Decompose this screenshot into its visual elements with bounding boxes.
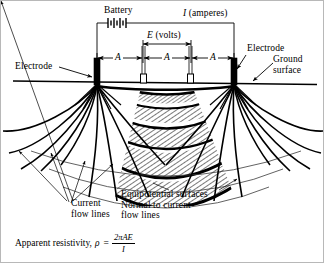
current-flow-label: Current flow lines: [71, 198, 127, 219]
leader-current-flow-lines: [1, 1, 113, 203]
current-label: II (amperes) (amperes): [183, 8, 228, 19]
formula-lead-text: Apparent resistivity,: [15, 238, 92, 248]
leader-electrode-right: [237, 55, 246, 69]
battery-label: Battery: [104, 5, 133, 16]
electrode-right-potential: [188, 74, 194, 83]
electrode-label-left: Electrode: [15, 61, 52, 72]
formula-denominator: I: [112, 243, 135, 254]
spacing-label-right: A: [208, 52, 218, 62]
leader-electrode-left: [59, 67, 92, 77]
electrode-left-potential: [141, 74, 147, 83]
near-surface-equipotential: [97, 86, 234, 90]
battery-symbol: [106, 18, 129, 28]
ground-surface-label: Ground surface: [273, 54, 319, 75]
apparent-resistivity-formula: Apparent resistivity, ρ = 2πAE I: [15, 233, 135, 253]
resistivity-diagram-figure: Battery II (amperes) (amperes) E (volts)…: [0, 0, 324, 263]
formula-numerator: 2πAE: [112, 233, 135, 243]
formula-equals: =: [104, 238, 109, 248]
spacing-label-left: A: [113, 52, 123, 62]
ground-surface-line: [13, 81, 317, 85]
formula-rho-symbol: ρ: [95, 238, 100, 248]
electrode-label-right: Electrode: [247, 43, 284, 54]
formula-fraction: 2πAE I: [112, 233, 135, 253]
equipotential-label: Equipotential surfaces Normal to current…: [121, 189, 241, 221]
spacing-label-middle: A: [162, 52, 172, 62]
voltage-label: E (volts): [147, 30, 181, 41]
leader-ground-surface: [253, 63, 273, 81]
